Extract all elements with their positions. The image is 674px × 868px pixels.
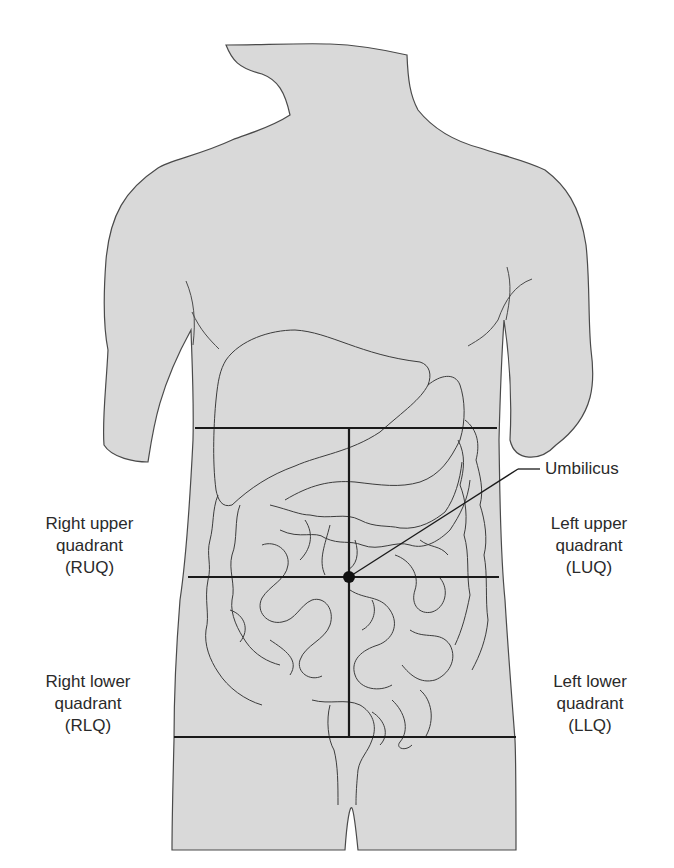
- luq-label-line1: Left upper: [524, 513, 654, 535]
- llq-label: Left lower quadrant (LLQ): [530, 671, 650, 737]
- rlq-label-abbr: (RLQ): [18, 715, 158, 737]
- umbilicus-label-text: Umbilicus: [545, 458, 619, 480]
- ruq-label-line1: Right upper: [22, 513, 157, 535]
- llq-label-abbr: (LLQ): [530, 715, 650, 737]
- llq-label-line1: Left lower: [530, 671, 650, 693]
- rlq-label-line2: quadrant: [18, 693, 158, 715]
- abdominal-quadrants-figure: Umbilicus Right upper quadrant (RUQ) Lef…: [0, 0, 674, 868]
- torso-illustration: [0, 0, 674, 868]
- luq-label: Left upper quadrant (LUQ): [524, 513, 654, 579]
- ruq-label-abbr: (RUQ): [22, 557, 157, 579]
- luq-label-line2: quadrant: [524, 535, 654, 557]
- ruq-label-line2: quadrant: [22, 535, 157, 557]
- ruq-label: Right upper quadrant (RUQ): [22, 513, 157, 579]
- umbilicus-dot: [343, 571, 355, 583]
- llq-label-line2: quadrant: [530, 693, 650, 715]
- rlq-label: Right lower quadrant (RLQ): [18, 671, 158, 737]
- umbilicus-label: Umbilicus: [545, 458, 619, 480]
- luq-label-abbr: (LUQ): [524, 557, 654, 579]
- rlq-label-line1: Right lower: [18, 671, 158, 693]
